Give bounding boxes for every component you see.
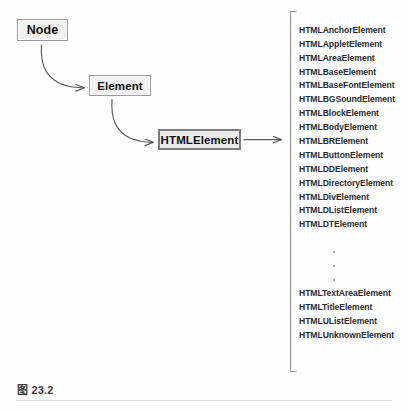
arrow-node-to-element: [41, 45, 84, 88]
list-item[interactable]: HTMLUnknownElement: [299, 329, 408, 343]
vertical-ellipsis-icon: [299, 246, 408, 287]
list-item[interactable]: HTMLDDElement: [299, 163, 408, 177]
list-top-spacer: [299, 10, 408, 24]
list-rows: HTMLAnchorElement HTMLAppletElement HTML…: [299, 10, 408, 343]
arrow-element-to-htmlelement: [112, 100, 153, 143]
list-item[interactable]: HTMLAppletElement: [299, 38, 408, 52]
list-item[interactable]: HTMLAreaElement: [299, 52, 408, 66]
list-item[interactable]: HTMLTitleElement: [299, 301, 408, 315]
list-mid-spacer: [299, 232, 408, 246]
list-item[interactable]: HTMLDivElement: [299, 191, 408, 205]
list-item[interactable]: HTMLDTElement: [299, 218, 408, 232]
list-item[interactable]: HTMLBodyElement: [299, 121, 408, 135]
list-item[interactable]: HTMLDListElement: [299, 204, 408, 218]
caption-divider: [16, 400, 392, 401]
list-item[interactable]: HTMLBaseElement: [299, 66, 408, 80]
class-box-element[interactable]: Element: [89, 75, 151, 96]
list-item[interactable]: HTMLAnchorElement: [299, 24, 408, 38]
list-item[interactable]: HTMLBRElement: [299, 135, 408, 149]
class-box-element-label: Element: [97, 80, 142, 92]
list-item[interactable]: HTMLButtonElement: [299, 149, 408, 163]
figure-caption: 图 23.2: [17, 381, 54, 397]
html-element-subclass-list: HTMLAnchorElement HTMLAppletElement HTML…: [289, 10, 408, 373]
list-item[interactable]: HTMLBaseFontElement: [299, 79, 408, 93]
list-item[interactable]: HTMLBGSoundElement: [299, 93, 408, 107]
figure-canvas: Node Element HTMLElement HTMLAnchorEleme…: [0, 0, 408, 411]
list-item[interactable]: HTMLUListElement: [299, 315, 408, 329]
list-item[interactable]: HTMLBlockElement: [299, 107, 408, 121]
class-box-node[interactable]: Node: [17, 19, 68, 41]
list-item[interactable]: HTMLTextAreaElement: [299, 287, 408, 301]
class-box-htmlelement-label: HTMLElement: [161, 134, 239, 146]
class-box-htmlelement[interactable]: HTMLElement: [158, 129, 241, 150]
class-box-node-label: Node: [27, 23, 59, 37]
list-item[interactable]: HTMLDirectoryElement: [299, 177, 408, 191]
